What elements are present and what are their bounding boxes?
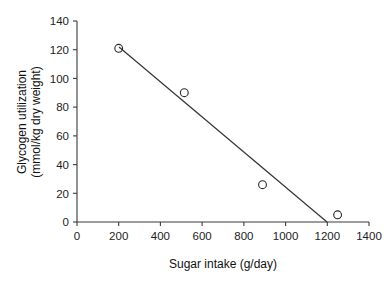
x-tick-label-1200: 1200 <box>315 230 341 242</box>
y-axis-title-line-2: (mmol/kg dry weight) <box>29 66 43 177</box>
x-tick-label-800: 800 <box>234 230 253 242</box>
x-tick-label-200: 200 <box>109 230 128 242</box>
data-point-4[interactable] <box>334 211 342 219</box>
y-tick-label-40: 40 <box>56 159 69 171</box>
x-axis-title: Sugar intake (g/day) <box>169 257 277 271</box>
y-tick-label-20: 20 <box>56 188 69 200</box>
x-axis-ticks <box>77 222 369 226</box>
y-tick-label-60: 60 <box>56 130 69 142</box>
x-tick-label-1000: 1000 <box>273 230 299 242</box>
chart-figure: 0 20 40 60 80 100 120 140 0 200 400 600 … <box>0 0 385 285</box>
x-tick-label-1400: 1400 <box>356 230 382 242</box>
scatter-plot-svg: 0 20 40 60 80 100 120 140 0 200 400 600 … <box>0 0 385 285</box>
x-tick-label-600: 600 <box>193 230 212 242</box>
trend-line <box>119 47 327 222</box>
x-axis-tick-labels: 0 200 400 600 800 1000 1200 1400 <box>74 230 382 242</box>
data-point-2[interactable] <box>180 89 188 97</box>
y-tick-label-120: 120 <box>50 44 69 56</box>
y-tick-label-140: 140 <box>50 15 69 27</box>
y-tick-label-80: 80 <box>56 101 69 113</box>
y-tick-label-100: 100 <box>50 73 69 85</box>
y-axis-tick-labels: 0 20 40 60 80 100 120 140 <box>50 15 69 228</box>
y-tick-label-0: 0 <box>63 216 69 228</box>
x-tick-label-0: 0 <box>74 230 80 242</box>
y-axis-title-line-1: Glycogen utilization <box>15 70 29 174</box>
data-points <box>115 44 342 218</box>
data-point-3[interactable] <box>259 181 267 189</box>
y-axis-ticks <box>73 21 77 222</box>
y-axis-title: Glycogen utilization (mmol/kg dry weight… <box>15 66 43 177</box>
x-tick-label-400: 400 <box>151 230 170 242</box>
